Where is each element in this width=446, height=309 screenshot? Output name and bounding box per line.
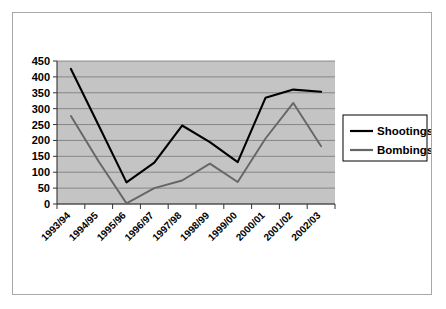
y-tick-label: 400 [32, 71, 50, 83]
x-category-label: 1999/00 [206, 209, 240, 243]
x-category-label: 2002/03 [289, 209, 323, 243]
y-tick-label: 0 [44, 198, 50, 210]
y-tick-label: 50 [38, 182, 50, 194]
x-axis-category-labels: 1993/941994/951995/961996/971997/981998/… [39, 209, 323, 243]
x-category-label: 2000/01 [234, 209, 268, 243]
x-category-label: 1997/98 [150, 209, 184, 243]
y-tick-label: 300 [32, 103, 50, 115]
legend-label-shootings: Shootings [377, 125, 431, 137]
x-category-label: 1996/97 [122, 209, 156, 243]
x-axis-tick-marks [57, 204, 335, 209]
x-category-label: 1998/99 [178, 209, 212, 243]
x-category-label: 1994/95 [67, 209, 101, 243]
chart-frame: 050100150200250300350400450 1993/941994/… [12, 12, 432, 295]
y-tick-label: 100 [32, 166, 50, 178]
y-tick-label: 450 [32, 55, 50, 67]
y-tick-label: 250 [32, 119, 50, 131]
x-category-label: 1995/96 [95, 209, 129, 243]
y-tick-label: 200 [32, 134, 50, 146]
line-chart: 050100150200250300350400450 1993/941994/… [13, 13, 431, 294]
y-axis-tick-labels: 050100150200250300350400450 [32, 55, 50, 210]
y-tick-label: 350 [32, 87, 50, 99]
legend-label-bombings: Bombings [377, 144, 431, 156]
chart-legend: ShootingsBombings [343, 115, 431, 161]
plot-area-background [57, 61, 335, 204]
x-category-label: 2001/02 [261, 209, 295, 243]
y-tick-label: 150 [32, 150, 50, 162]
x-category-label: 1993/94 [39, 209, 73, 243]
